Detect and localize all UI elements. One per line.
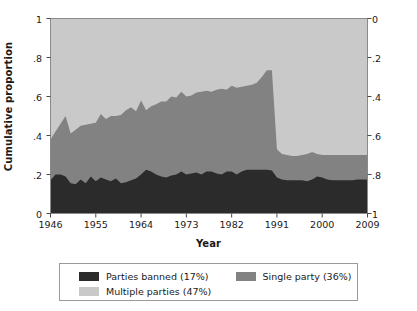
x-tick-label: 2000 [310,219,334,230]
x-tick-label: 1964 [129,219,153,230]
cumulative-proportion-area-chart: Cumulative proportion 0.2.4.6.81 0.2.4.6… [0,0,417,311]
legend-row-2: Multiple parties (47%) [60,284,357,298]
legend-label-single-party: Single party (36%) [263,271,352,282]
legend-entry-single-party: Single party (36%) [236,271,352,282]
legend-row-1: Parties banned (17%) Single party (36%) [60,269,357,283]
x-tick-label: 1955 [84,219,108,230]
legend-swatch-parties-banned [79,272,99,281]
legend-label-multiple-parties: Multiple parties (47%) [106,286,211,297]
x-tick-label: 1991 [265,219,289,230]
legend-swatch-multiple-parties [79,287,99,296]
legend-entry-multiple-parties: Multiple parties (47%) [79,286,211,297]
x-axis-title: Year [50,238,367,249]
chart-legend: Parties banned (17%) Single party (36%) … [59,263,358,301]
legend-entry-parties-banned: Parties banned (17%) [79,271,209,282]
x-tick-label: 1946 [38,219,62,230]
x-tick-label: 2009 [355,219,379,230]
x-tick-label: 1982 [220,219,244,230]
legend-label-parties-banned: Parties banned (17%) [106,271,209,282]
stacked-areas [51,19,368,214]
legend-swatch-single-party [236,272,256,281]
x-tick-label: 1973 [174,219,198,230]
